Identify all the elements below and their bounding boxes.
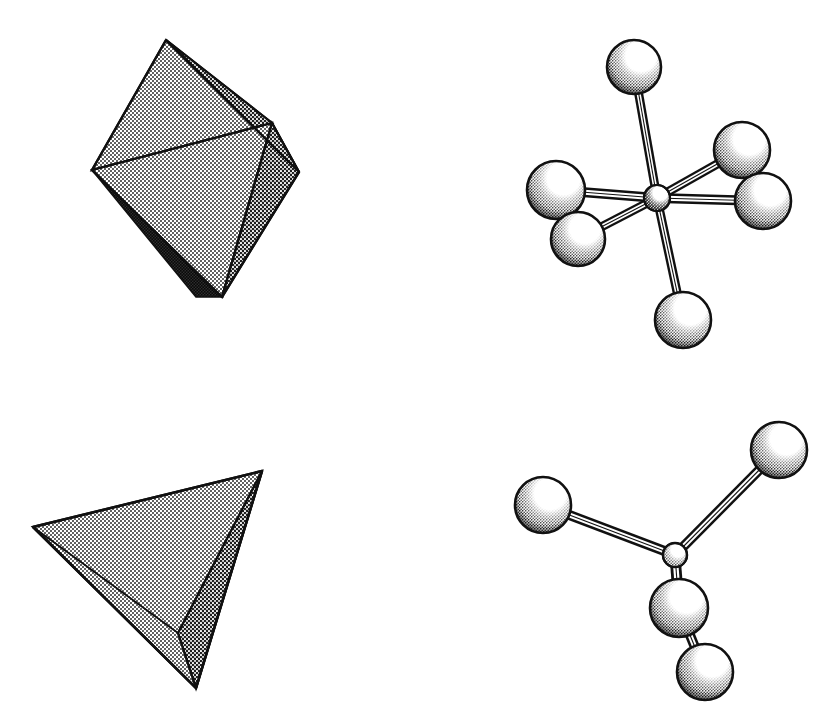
ligand-upper-right [714, 122, 770, 178]
ligand-lower [677, 644, 733, 700]
ligand-left [527, 161, 585, 219]
octahedral-central-atom [644, 185, 670, 211]
figure-canvas [0, 0, 827, 712]
ligand-left [515, 477, 571, 533]
ligand-top [607, 40, 661, 94]
ligand-right [735, 173, 791, 229]
ligand-bottom [655, 292, 711, 348]
ligand-front [650, 579, 708, 637]
ligand-upper-right [751, 422, 807, 478]
tetrahedral-central-atom [663, 543, 687, 567]
ligand-lower-left [551, 212, 605, 266]
